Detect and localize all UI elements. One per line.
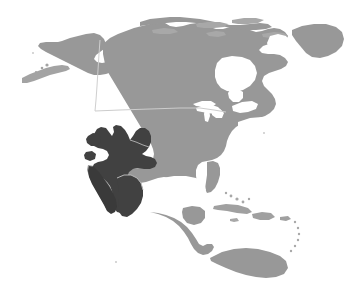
antilles-dot-6 <box>290 250 292 252</box>
aleutian-dot-1 <box>45 63 48 66</box>
bahamas-dot-4 <box>248 198 250 200</box>
bahamas-dot-5 <box>225 192 227 194</box>
antilles-dot-5 <box>294 245 296 247</box>
antilles-dot-4 <box>297 239 299 241</box>
map-speck-3 <box>32 52 34 54</box>
map-speck <box>115 261 117 263</box>
antilles-dot-1 <box>294 221 296 223</box>
bahamas-dot-3 <box>242 201 245 204</box>
map-speck-2 <box>263 132 265 134</box>
aleutian-dot-3 <box>35 71 37 73</box>
range-map-figure <box>0 0 346 296</box>
north-america-map <box>0 0 346 296</box>
bahamas-dot-2 <box>235 197 238 200</box>
antilles-dot-3 <box>298 233 300 235</box>
aleutian-dot-2 <box>41 67 44 70</box>
bahamas-dot-1 <box>230 195 233 198</box>
antilles-dot-2 <box>297 227 299 229</box>
